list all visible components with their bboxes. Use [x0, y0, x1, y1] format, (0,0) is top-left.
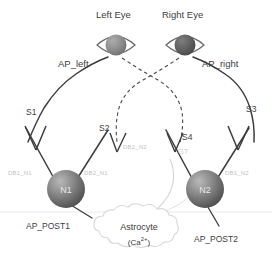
astrocyte-ion-superscript: 2+ — [141, 236, 148, 242]
right-eye-pupil-icon — [175, 35, 196, 56]
synapse-marker-s3 — [228, 126, 249, 150]
left-eye-label: Left Eye — [96, 10, 131, 20]
synapse-s1-label: S1 — [26, 108, 36, 117]
ap-post2-label: AP_POST2 — [194, 235, 238, 244]
ap-right-label: AP_right — [202, 59, 238, 69]
ap-left-label: AP_left — [58, 59, 89, 69]
right-eye-label: Right Eye — [162, 10, 203, 20]
synapse-s4-label: S4 — [182, 133, 192, 142]
neuron-n2: N2 — [186, 170, 224, 208]
axon-left-contralateral — [122, 58, 183, 142]
synapse-s2-label: S2 — [99, 124, 109, 133]
left-eye — [97, 35, 135, 56]
axon-left-ipsilateral — [28, 57, 108, 142]
axon-right-contralateral — [116, 58, 179, 142]
synapse-s3-label: S3 — [246, 105, 256, 114]
astrocyte-name-label: Astrocyte — [105, 223, 173, 232]
astrocyte-ion-close: ) — [148, 238, 151, 247]
left-eye-pupil-icon — [106, 35, 127, 56]
dendrite-db2-n2-label: DB2_N2 — [123, 144, 147, 150]
astrocyte-ion-open: (Ca — [128, 238, 141, 247]
ap-post1-label: AP_POST1 — [26, 222, 70, 231]
dendrite-db1-n1-label: DB1_N1 — [8, 170, 32, 176]
neuron-n1: N1 — [47, 170, 85, 208]
right-eye — [166, 35, 204, 56]
dendrite-db2-n1-label: DB2_N1 — [84, 170, 108, 176]
neuron-n1-label: N1 — [60, 185, 72, 195]
figure-canvas: N1 N2 Left Eye Right Eye AP_left AP_righ… — [0, 0, 272, 270]
neuron-n2-label: N2 — [199, 185, 211, 195]
gliotransmitter-label: GT — [178, 148, 188, 156]
dendrite-db1-n2-label: DB1_N2 — [225, 170, 249, 176]
astrocyte-ion-label: (Ca2+) — [105, 236, 173, 247]
axon-right-ipsilateral — [193, 57, 254, 142]
